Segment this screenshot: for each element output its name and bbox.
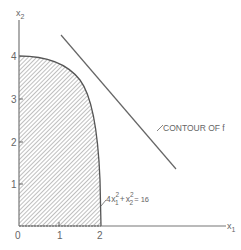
y-tick-label-1: 1 xyxy=(11,179,17,190)
y-tick-label-2: 2 xyxy=(11,137,17,148)
x-tick-label-0: 0 xyxy=(15,230,21,241)
feasible-region xyxy=(19,56,101,226)
diagram-canvas: 0 1 2 1 2 3 4 x2 x1 CONTOUR OF f 4x21+x2… xyxy=(0,0,241,250)
x-axis-label: x1 xyxy=(227,221,236,233)
x-tick-label-1: 1 xyxy=(57,230,63,241)
y-tick-label-4: 4 xyxy=(11,51,17,62)
constraint-label: 4x21+x22= 16 xyxy=(106,191,149,206)
x-tick-label-2: 2 xyxy=(97,230,103,241)
contour-label: CONTOUR OF f xyxy=(163,123,225,133)
y-axis-label: x2 xyxy=(16,8,25,20)
y-tick-label-3: 3 xyxy=(11,94,17,105)
